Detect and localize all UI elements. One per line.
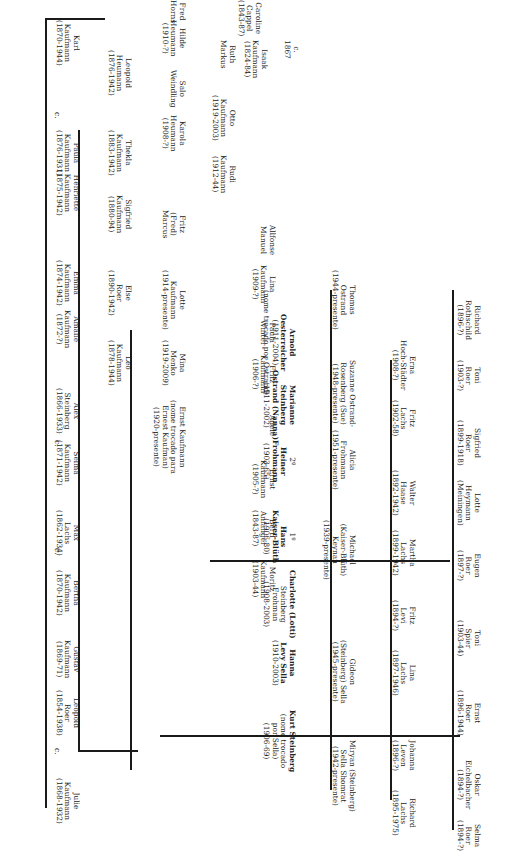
person-isaak: IsaakKaufmann(1824-84) [242,40,268,78]
person-text-line: Richard [472,300,481,340]
person-text-line: Steinberg [279,570,288,639]
person-text-line: (1910-?) [160,20,169,57]
person-text-line: Mina [177,340,186,386]
person-text-line: Leopold [123,50,132,96]
person-text-line: Karola [177,115,186,152]
person-ruth: RuthMarkus [219,40,236,69]
person-text-line: (1854-1938) [54,690,63,736]
person-text-line: (1908-2003) [262,570,271,639]
person-julie: JulieKaufmann(1868-1932) [54,778,80,824]
person-alicia: AliciaFrohmann(1951-presente) [330,430,356,490]
person-text-line: Levi [399,600,408,631]
person-text-line: Sigfried [472,420,481,466]
person-thomas: ThomasOstrand(1944-presente) [330,270,356,330]
person-text-line: Kaufmann [63,170,72,216]
connector-line [210,560,450,562]
person-text-line: (1906-69) [262,710,271,772]
person-hans: 1ºHansKaiser-Blüth(1906-80) [262,510,296,563]
person-text-line: Horns [169,0,178,23]
person-text-line: Kaufmann [219,155,228,193]
person-text-line: Karl [71,20,80,66]
person-text-line: Roer [115,270,124,316]
person-eugen: EugenRoer(1897-?) [455,550,481,581]
person-text-line: (1897-?) [455,550,464,581]
person-text-line: (Fred) [169,210,178,238]
person-text-line: Otto [227,95,236,141]
person-text-line: Alicia [347,430,356,490]
person-text-line: Richard [407,790,416,836]
person-sigfried-r: SigfriedRoer(1899-1918) [455,420,481,466]
person-erna: ErnaHoch-Städter(1908-?) [390,340,416,390]
person-text-line: (nome trocado por Ostrand) [262,290,271,395]
connector-line [452,290,454,830]
person-text-line: Kaufmann [115,340,124,386]
person-text-line: Walter [407,470,416,516]
person-text-line: Roer [464,420,473,466]
person-text-line: 2º [287,440,296,483]
person-text-line: Lina [407,650,416,696]
person-text-line: Ruth [227,40,236,69]
connector-line [130,330,132,770]
person-text-line: Leven [399,740,408,771]
person-text-line: (1920-presente) [152,400,161,474]
connector-line [78,750,138,752]
person-text-line: (Steinberg) Sella [339,640,348,704]
person-text-line: (1880-94) [106,195,115,233]
person-henriette: HenrietteKaufmann(1875-1942) [54,170,80,216]
person-text-line: Rothschild [464,300,473,340]
person-mina: MinaMenko(1919-2009) [160,340,186,386]
person-text-line: (Kaiser-Blüth) [339,520,348,580]
person-text-line: Kaufmann [63,20,72,66]
person-ernst-kaufman-renamed: Ernst Kaufmann(nome trocado paraErnest K… [152,400,186,474]
person-selma-k: SelmaKaufmann(1871-1942) [54,440,80,486]
person-text-line: Heumann [169,20,178,57]
person-text-line: (1906-80) [262,510,271,563]
person-text-line: (1872-?) [54,310,63,348]
person-text-line: Ernst Kaufmann [177,400,186,474]
person-hilde: HildeHeumann(1910-?) [160,20,186,57]
person-text-line: Caroline [253,0,262,36]
person-text-line: (1890-1942) [106,270,115,316]
person-text-line: Spier [464,620,473,656]
person-text-line: (1903-44) [455,620,464,656]
person-text-line: Isaak [259,40,268,78]
person-text-line: Kaufmann [115,195,124,233]
person-text-line: (1908-?) [160,115,169,152]
person-text-line: (1866-1933) [54,388,63,434]
person-text-line: Cappel [245,0,254,36]
person-paula-k: PaulaKaufmann(1876-1931) [54,130,80,176]
person-text-line: Rosenberg (Sue) [339,360,348,427]
person-karola: KarolaHeumann(1908-?) [160,115,186,152]
person-text-line: Kaufmann [63,440,72,486]
person-leo: LeoKaufmann(1878-1944) [106,340,132,386]
person-text-line: por Sella) [270,710,279,772]
person-text-line: (1870-1944) [54,20,63,66]
person-text-line: Arnold [287,290,296,395]
person-text-line: (1894-?) [455,820,464,851]
person-text-line: Hanna [287,640,296,686]
marriage-marker: c. [53,548,62,555]
person-text-line: Menko [169,340,178,386]
person-text-line: Roer [464,360,473,391]
person-text-line: (1883-1942) [106,130,115,176]
person-text-line: Heiner [279,440,288,483]
person-text-line: Hilde [177,20,186,57]
person-text-line: (1876-1931) [54,130,63,176]
person-fritz-l: FritzLachs(1902-58) [390,400,416,436]
person-arnold: ArnoldOesterreicher(1911-2004)(nome troc… [262,290,296,395]
person-text-line: Eugen [472,550,481,581]
person-text-line: Levy Sella [279,640,288,686]
connector-line [390,360,392,800]
person-else: ElseRoer(1890-1942) [106,270,132,316]
person-text-line: (1874-1942) [54,260,63,306]
person-text-line: (1903-44) [250,560,259,598]
person-text-line: Fred [177,0,186,23]
person-text-line: Oesterreicher [279,290,288,395]
person-text-line: Sigfried [123,195,132,233]
person-text-line: Salo [177,70,186,107]
person-text-line: (1878-1944) [106,340,115,386]
person-ernst-r: ErnstRoer(1896-1944) [455,690,481,736]
person-text-line: (1894-?) [455,760,464,809]
person-text-line: (nome trocado [279,710,288,772]
person-text-line: (1899-1918) [455,420,464,466]
